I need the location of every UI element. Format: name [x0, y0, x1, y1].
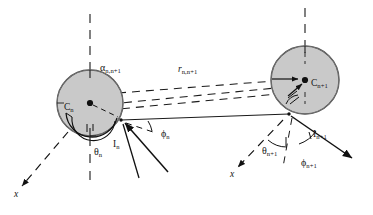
sphere-n1 [271, 46, 339, 114]
label-c-n: Cn [64, 97, 74, 113]
label-theta-n: θn [94, 142, 102, 158]
vertical-axis-right-lower [283, 118, 292, 167]
label-i-n1: In+1 [313, 124, 327, 140]
label-c-n1: Cn+1 [311, 73, 328, 89]
center-line [121, 114, 289, 120]
label-x-right: x [230, 170, 234, 180]
separation-lines [93, 79, 300, 110]
label-theta-n1: θn+1 [262, 141, 277, 157]
label-phi-n: ϕn [161, 124, 170, 140]
center-dot-n1 [302, 77, 308, 83]
contact-point-n1 [268, 112, 352, 158]
x-axis-left [22, 132, 68, 186]
geometry-diagram [0, 0, 373, 215]
label-alpha: αn,n+1 [100, 58, 121, 74]
center-dot-n [87, 100, 93, 106]
label-x-left: x [14, 190, 18, 200]
label-phi-n1: ϕn+1 [301, 153, 317, 169]
label-r: rn,n+1 [178, 59, 197, 75]
label-i-n: In [113, 134, 120, 150]
figure-root: αn,n+1 rn,n+1 Cn Cn+1 In In+1 θn θn+1 ϕn… [0, 0, 373, 215]
